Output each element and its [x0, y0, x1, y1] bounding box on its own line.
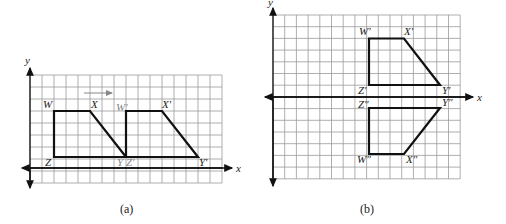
panel-b: x y W′ X′ Z′ Y′ Z″ Y″ W″ X″ (b) — [265, 0, 482, 216]
x-axis-label-a: x — [235, 162, 241, 174]
label-x-prime: X′ — [161, 98, 172, 110]
label-z-prime: Z′ — [126, 156, 135, 168]
caption-b: (b) — [360, 202, 374, 216]
x-axis-label-b: x — [476, 91, 482, 103]
label-y-prime: Y′ — [199, 156, 208, 168]
y-axis-label-b: y — [267, 0, 273, 8]
label-x: X — [90, 98, 99, 110]
label-z: Z — [45, 156, 52, 168]
caption-a: (a) — [120, 202, 133, 216]
label-y-prime-b: Y′ — [442, 84, 451, 96]
label-x-double-prime: X″ — [405, 153, 418, 165]
label-w-double-prime: W″ — [357, 153, 371, 165]
label-w: W — [43, 98, 53, 110]
label-x-prime-b: X′ — [403, 25, 414, 37]
shape-wxyz-double-prime — [369, 108, 440, 154]
panel-a: x y W X Z W′ X′ Y Z′ Y′ (a) — [22, 54, 241, 216]
label-z-prime-b: Z′ — [358, 84, 367, 96]
label-w-prime: W′ — [116, 101, 128, 113]
figure-canvas: x y W X Z W′ X′ Y Z′ Y′ (a) x y W′ X′ Z′… — [0, 0, 506, 224]
label-z-double-prime: Z″ — [358, 98, 369, 110]
label-w-prime-b: W′ — [359, 25, 371, 37]
y-axis-label-a: y — [24, 54, 30, 66]
label-y-double-prime: Y″ — [442, 96, 453, 108]
